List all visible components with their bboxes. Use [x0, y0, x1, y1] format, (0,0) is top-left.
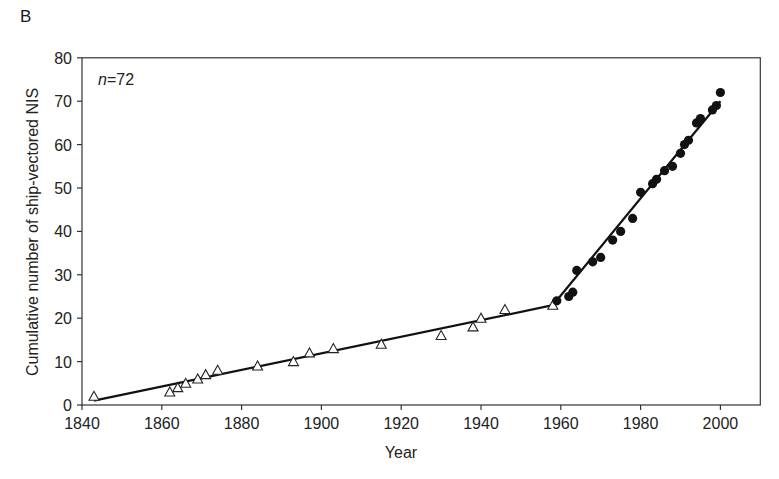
triangle-marker: [500, 305, 510, 314]
x-axis-title: Year: [385, 444, 418, 461]
circle-marker: [652, 175, 661, 184]
y-tick-label: 40: [54, 223, 72, 240]
triangle-marker: [213, 365, 223, 374]
circle-marker: [636, 188, 645, 197]
triangle-marker: [201, 370, 211, 379]
y-axis-title: Cumulative number of ship-vectored NIS: [24, 88, 41, 376]
triangle-marker: [304, 348, 314, 357]
fit-lines: [94, 101, 720, 400]
x-tick-label: 2000: [703, 415, 739, 432]
sample-size-annotation: n=72: [98, 71, 134, 88]
x-tick-label: 1840: [64, 415, 100, 432]
x-tick-label: 1960: [543, 415, 579, 432]
triangle-marker: [89, 391, 99, 400]
x-tick-label: 1940: [463, 415, 499, 432]
y-tick-label: 10: [54, 354, 72, 371]
circle-marker: [676, 149, 685, 158]
circle-marker: [684, 136, 693, 145]
data-points: [89, 88, 725, 400]
circle-marker: [568, 288, 577, 297]
x-tick-label: 1880: [224, 415, 260, 432]
y-tick-label: 0: [63, 397, 72, 414]
triangle-marker: [436, 331, 446, 340]
x-tick-label: 1920: [383, 415, 419, 432]
triangle-marker: [476, 313, 486, 322]
y-tick-label: 60: [54, 137, 72, 154]
circle-marker: [716, 88, 725, 97]
plot-frame: [82, 58, 760, 405]
y-tick-label: 50: [54, 180, 72, 197]
circle-marker: [572, 266, 581, 275]
triangle-marker: [328, 344, 338, 353]
x-tick-label: 1860: [144, 415, 180, 432]
y-axis-ticks: 01020304050607080: [54, 50, 82, 414]
y-tick-label: 20: [54, 310, 72, 327]
circle-marker: [628, 214, 637, 223]
circle-marker: [712, 101, 721, 110]
circle-marker: [588, 257, 597, 266]
x-tick-label: 1980: [623, 415, 659, 432]
circle-marker: [616, 227, 625, 236]
axes-frame: [82, 58, 760, 405]
chart: 184018601880190019201940196019802000 010…: [0, 0, 779, 479]
annotation-value: =72: [107, 71, 134, 88]
circle-marker: [696, 114, 705, 123]
y-tick-label: 80: [54, 50, 72, 67]
x-tick-label: 1900: [304, 415, 340, 432]
circle-marker: [668, 162, 677, 171]
annotation-variable: n: [98, 71, 107, 88]
circle-marker: [608, 235, 617, 244]
circle-marker: [552, 296, 561, 305]
y-tick-label: 30: [54, 267, 72, 284]
y-tick-label: 70: [54, 93, 72, 110]
circle-marker: [660, 166, 669, 175]
circle-marker: [596, 253, 605, 262]
x-axis-ticks: 184018601880190019201940196019802000: [64, 405, 738, 432]
